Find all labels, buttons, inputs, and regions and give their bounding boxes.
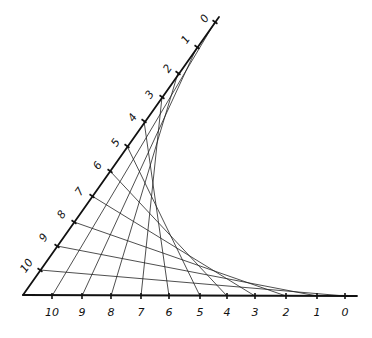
bottom-label-9: 9 xyxy=(79,306,86,319)
slanted-label-8: 8 xyxy=(54,208,69,221)
bottom-label-3: 3 xyxy=(252,306,259,319)
bottom-label-0: 0 xyxy=(342,306,349,319)
bottom-label-6: 6 xyxy=(166,306,173,319)
slanted-label-4: 4 xyxy=(125,111,140,124)
string-art-diagram: 012345678910 012345678910 xyxy=(0,0,372,338)
slanted-label-3: 3 xyxy=(142,88,157,101)
slanted-label-7: 7 xyxy=(72,185,87,198)
slanted-label-9: 9 xyxy=(36,231,51,244)
slanted-axis-labels: 012345678910 xyxy=(17,12,212,275)
bottom-label-1: 1 xyxy=(314,306,321,319)
slanted-axis xyxy=(23,17,219,295)
slanted-label-1: 1 xyxy=(178,33,193,46)
string-5-to-5 xyxy=(127,146,200,296)
bottom-label-2: 2 xyxy=(283,306,290,319)
bottom-label-8: 8 xyxy=(108,306,115,319)
string-8-to-2 xyxy=(74,222,286,296)
slanted-label-10: 10 xyxy=(17,256,36,275)
bottom-label-7: 7 xyxy=(138,306,145,319)
bottom-axis xyxy=(23,295,357,296)
slanted-label-5: 5 xyxy=(108,136,123,149)
bottom-axis-labels: 012345678910 xyxy=(45,306,349,319)
slanted-label-2: 2 xyxy=(160,62,175,75)
bottom-label-4: 4 xyxy=(224,306,231,319)
slanted-label-6: 6 xyxy=(90,159,105,172)
bottom-label-10: 10 xyxy=(45,306,59,319)
string-lines xyxy=(40,22,345,296)
bottom-label-5: 5 xyxy=(197,306,204,319)
string-10-to-0 xyxy=(40,270,345,296)
slanted-label-0: 0 xyxy=(197,12,212,25)
